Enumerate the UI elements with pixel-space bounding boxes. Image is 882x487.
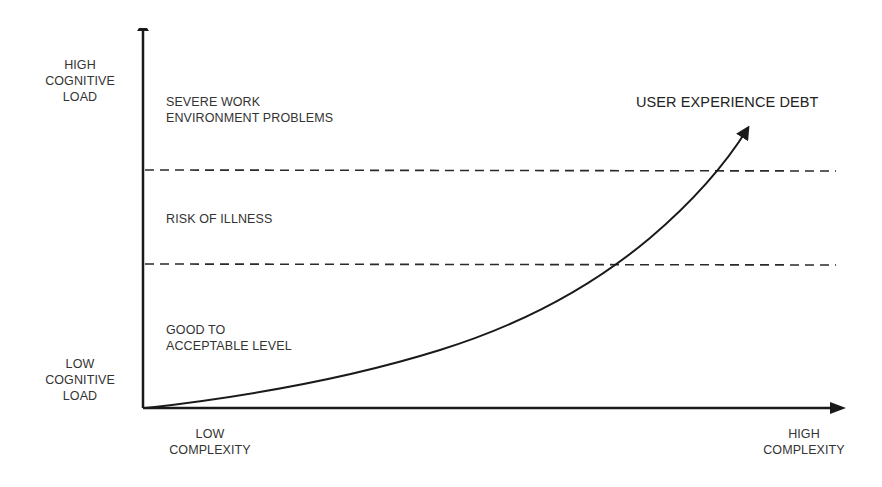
threshold-line-lower (145, 264, 836, 265)
y-axis-high-label: HIGH COGNITIVE LOAD (34, 57, 126, 105)
y-high-line-1: HIGH (34, 57, 126, 73)
zone-risk-line-1: RISK OF ILLNESS (166, 211, 272, 227)
zone-label-good: GOOD TO ACCEPTABLE LEVEL (166, 322, 292, 354)
y-high-line-3: LOAD (34, 89, 126, 105)
y-low-line-3: LOAD (34, 388, 126, 404)
y-axis-cap (137, 28, 149, 31)
x-high-line-2: COMPLEXITY (744, 442, 864, 458)
diagram-canvas (0, 0, 882, 487)
x-low-line-1: LOW (150, 426, 270, 442)
y-low-line-1: LOW (34, 356, 126, 372)
y-low-line-2: COGNITIVE (34, 372, 126, 388)
zone-severe-line-2: ENVIRONMENT PROBLEMS (166, 110, 333, 126)
x-low-line-2: COMPLEXITY (150, 442, 270, 458)
y-axis-low-label: LOW COGNITIVE LOAD (34, 356, 126, 404)
zone-label-risk: RISK OF ILLNESS (166, 211, 272, 227)
x-high-line-1: HIGH (744, 426, 864, 442)
zone-good-line-1: GOOD TO (166, 322, 292, 338)
zone-label-severe: SEVERE WORK ENVIRONMENT PROBLEMS (166, 94, 333, 126)
curve-label: USER EXPERIENCE DEBT (636, 94, 819, 110)
y-high-line-2: COGNITIVE (34, 73, 126, 89)
zone-good-line-2: ACCEPTABLE LEVEL (166, 338, 292, 354)
x-axis-high-label: HIGH COMPLEXITY (744, 426, 864, 458)
threshold-line-upper (145, 170, 836, 171)
x-axis-arrow-icon (830, 402, 846, 414)
x-axis-low-label: LOW COMPLEXITY (150, 426, 270, 458)
zone-severe-line-1: SEVERE WORK (166, 94, 333, 110)
